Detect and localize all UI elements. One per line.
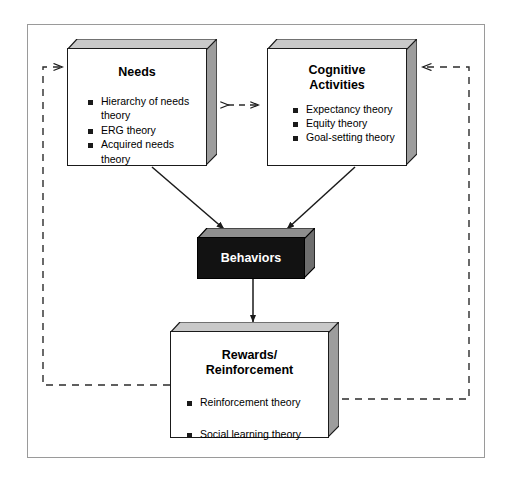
- box-cognitive-item-list: Expectancy theory Equity theory Goal-set…: [292, 102, 406, 145]
- box-rewards-title: Rewards/ Reinforcement: [171, 348, 328, 378]
- list-item: Equity theory: [292, 116, 406, 130]
- box-needs-item-list: Hierarchy of needs theory ERG theory Acq…: [87, 94, 206, 166]
- box-rewards-face: Rewards/ Reinforcement Reinforcement the…: [170, 331, 329, 438]
- diagram-root: Needs Hierarchy of needs theory ERG theo…: [0, 0, 512, 482]
- list-item: Acquired needs theory: [87, 137, 206, 166]
- box-needs[interactable]: Needs Hierarchy of needs theory ERG theo…: [67, 39, 217, 166]
- list-item: ERG theory: [87, 123, 206, 137]
- box-cognitive-activities[interactable]: Cognitive Activities Expectancy theory E…: [267, 39, 417, 166]
- box-needs-face: Needs Hierarchy of needs theory ERG theo…: [67, 48, 207, 166]
- box-cognitive-title-line1: Cognitive: [268, 63, 406, 78]
- box-cognitive-title: Cognitive Activities: [268, 63, 406, 93]
- list-item: Goal-setting theory: [292, 130, 406, 144]
- box-rewards-title-line1: Rewards/: [171, 348, 328, 363]
- list-item: Hierarchy of needs theory: [87, 94, 206, 123]
- box-needs-title: Needs: [68, 65, 206, 80]
- box-rewards-item-list: Reinforcement theory Social learning the…: [186, 395, 328, 442]
- box-behaviors-face: Behaviors: [197, 237, 305, 279]
- list-item: Social learning theory: [186, 427, 328, 441]
- box-rewards-reinforcement[interactable]: Rewards/ Reinforcement Reinforcement the…: [170, 322, 339, 438]
- box-cognitive-title-line2: Activities: [268, 78, 406, 93]
- list-item: Reinforcement theory: [186, 395, 328, 409]
- box-cognitive-face: Cognitive Activities Expectancy theory E…: [267, 48, 407, 166]
- box-behaviors-title: Behaviors: [198, 251, 304, 266]
- list-item: Expectancy theory: [292, 102, 406, 116]
- box-rewards-title-line2: Reinforcement: [171, 363, 328, 378]
- box-behaviors[interactable]: Behaviors: [197, 228, 315, 279]
